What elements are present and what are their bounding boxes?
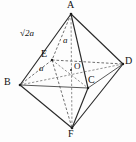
vertex-dot-D [122,63,124,65]
vertex-dot-A [70,13,73,16]
edge-E-D [52,60,123,64]
vertex-label-E: E [41,49,47,59]
vertex-label-O: O [74,62,81,71]
diagonal-A-F [71,14,72,128]
edge-D-F [72,64,123,128]
dashed-edge-group [20,14,123,128]
edge-E-B [20,60,52,85]
measure-label-slant-edge: √2a [20,29,34,38]
octahedron-figure: A B C D E F O √2a a a [0,0,136,142]
edge-A-C [71,14,88,88]
edge-B-C [20,85,88,88]
measure-label-vertical-a: a [63,36,68,45]
octahedron-svg [0,0,136,142]
vertex-dot-C [87,87,89,89]
edge-A-D [71,14,123,64]
vertex-label-C: C [88,75,95,85]
vertex-dot-B [19,84,22,87]
vertex-label-F: F [68,129,74,139]
edge-B-F [20,85,72,128]
radicand-2a: 2a [25,28,34,38]
vertex-dot-group [19,13,125,130]
edge-E-F [52,60,72,128]
vertex-dot-E [51,59,53,61]
vertex-label-B: B [4,77,11,87]
vertex-label-D: D [125,56,132,66]
vertex-label-A: A [67,0,74,10]
measure-label-horizontal-a: a [39,64,44,73]
vertex-dot-O [70,69,72,71]
edge-C-F [72,88,88,128]
